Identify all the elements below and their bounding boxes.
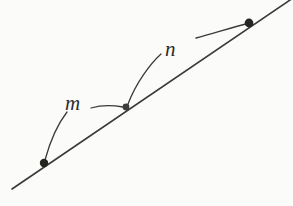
point-dot-upper-right: [245, 19, 254, 28]
figure-canvas: [0, 0, 293, 206]
point-label-m: m: [65, 93, 80, 114]
point-dot-middle: [123, 104, 130, 111]
geometry-figure: m n: [0, 0, 293, 206]
point-dot-lower-left: [40, 159, 48, 167]
point-label-n: n: [165, 39, 176, 60]
figure-background: [0, 0, 293, 206]
